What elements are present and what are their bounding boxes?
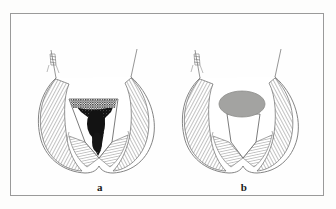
figure-panel-b: b bbox=[169, 32, 319, 197]
figure-panel-a: a bbox=[25, 32, 175, 197]
figure-b-gray-oval bbox=[219, 91, 265, 117]
figure-b-drawing bbox=[169, 32, 319, 182]
panel-b-label: b bbox=[169, 181, 319, 193]
figure-a-apodemes bbox=[47, 49, 137, 78]
figure-b-apodemes bbox=[191, 49, 281, 78]
plate-frame: a bbox=[10, 13, 324, 196]
figure-plate: a bbox=[0, 0, 336, 209]
panel-a-label: a bbox=[25, 181, 175, 193]
figure-a-drawing bbox=[25, 32, 175, 182]
